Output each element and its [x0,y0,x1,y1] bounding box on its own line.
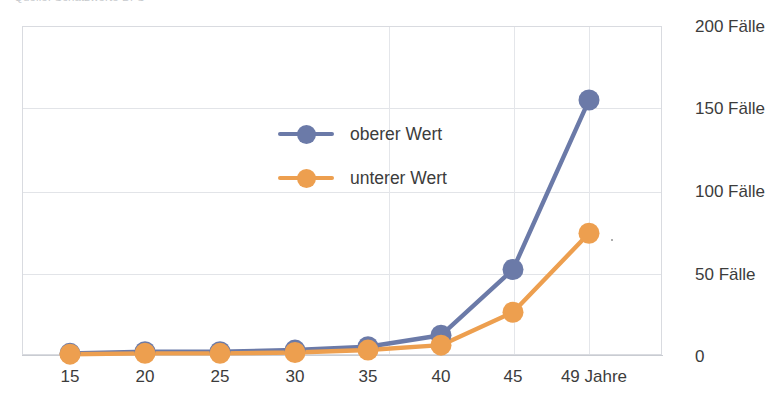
legend-item-oberer-wert[interactable]: oberer Wert [278,112,447,156]
x-tick-40: 40 [432,368,451,385]
y-tick-0: 0 [695,348,704,365]
y-tick-150: 150 Fälle [695,100,765,117]
chart-container: Quelle: Schätzwerte BFS 0 50 Fälle 100 F… [0,0,782,409]
x-tick-35: 35 [359,368,378,385]
y-tick-100: 100 Fälle [695,183,765,200]
chart-legend: oberer Wert unterer Wert [278,112,447,200]
legend-label-unterer-wert: unterer Wert [350,168,447,189]
x-tick-20: 20 [136,368,155,385]
legend-item-unterer-wert[interactable]: unterer Wert [278,156,447,200]
gridline-vertical-49 [589,27,590,354]
legend-marker-icon-oberer-wert [278,123,334,145]
x-tick-15: 15 [61,368,80,385]
gridline-50 [23,274,661,275]
y-tick-200: 200 Fälle [695,18,765,35]
chart-source-title: Quelle: Schätzwerte BFS [14,0,145,3]
x-axis-line [22,355,663,356]
legend-marker-icon-unterer-wert [278,167,334,189]
gridline-vertical-45 [514,27,515,354]
x-tick-45: 45 [504,368,523,385]
legend-label-oberer-wert: oberer Wert [350,124,442,145]
x-tick-49-jahre: 49 Jahre [561,368,627,385]
scan-artifact-speck [611,239,613,241]
x-tick-25: 25 [211,368,230,385]
x-tick-30: 30 [286,368,305,385]
gridline-150 [23,108,661,109]
y-tick-50: 50 Fälle [695,266,755,283]
